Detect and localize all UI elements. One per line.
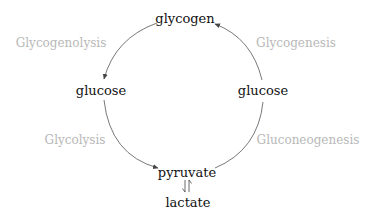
label-gluconeogenesis: Gluconeogenesis — [257, 134, 360, 146]
arrow-glycogenolysis — [104, 23, 157, 79]
arrows-layer — [0, 0, 372, 213]
equilibrium-arrows-icon — [183, 180, 192, 192]
label-glycogenolysis: Glycogenolysis — [16, 37, 107, 49]
node-glucose-left: glucose — [76, 84, 126, 97]
node-glucose-right: glucose — [238, 84, 288, 97]
label-glycogenesis: Glycogenesis — [256, 37, 336, 49]
metabolic-cycle-diagram: glycogen glucose glucose pyruvate lactat… — [0, 0, 372, 213]
node-lactate: lactate — [165, 196, 210, 209]
node-glycogen: glycogen — [155, 12, 214, 25]
arrow-glycogenesis — [215, 24, 262, 80]
node-pyruvate: pyruvate — [158, 166, 216, 179]
label-glycolysis: Glycolysis — [45, 134, 106, 146]
arrow-glycolysis — [104, 100, 158, 168]
